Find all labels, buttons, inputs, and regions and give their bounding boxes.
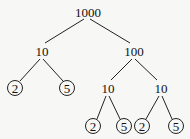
factor-tree-diagram: 1000101002510102525: [0, 0, 190, 139]
node-label: 5: [121, 119, 128, 134]
node-label: 10: [36, 44, 49, 59]
node-label: 2: [139, 119, 146, 134]
tree-edge: [109, 96, 120, 119]
tree-edge: [97, 96, 106, 119]
circled-prime-node: 5: [117, 119, 132, 135]
circled-prime-node: 2: [86, 119, 101, 135]
tree-edge: [43, 59, 63, 81]
node-label: 100: [124, 44, 144, 59]
tree-node: 10: [102, 81, 115, 96]
tree-node: 10: [36, 44, 49, 59]
circled-prime-node: 5: [169, 119, 184, 135]
node-label: 2: [90, 119, 97, 134]
tree-node: 1000: [75, 5, 101, 20]
circled-prime-node: 2: [8, 81, 23, 97]
tree-node: 10: [155, 81, 168, 96]
node-label: 5: [64, 81, 71, 96]
tree-edge: [146, 96, 159, 119]
tree-edges: [20, 19, 172, 119]
tree-nodes: 1000101002510102525: [8, 5, 184, 134]
tree-edge: [162, 96, 172, 119]
node-label: 2: [12, 81, 19, 96]
node-label: 10: [102, 81, 115, 96]
node-label: 1000: [75, 5, 101, 20]
circled-prime-node: 5: [60, 81, 75, 97]
tree-edge: [45, 19, 84, 43]
node-label: 5: [173, 119, 180, 134]
tree-edge: [90, 19, 130, 43]
circled-prime-node: 2: [135, 119, 150, 135]
tree-edge: [20, 59, 40, 81]
tree-edge: [135, 59, 157, 80]
tree-node: 100: [124, 44, 144, 59]
node-label: 10: [155, 81, 168, 96]
tree-edge: [111, 59, 132, 80]
